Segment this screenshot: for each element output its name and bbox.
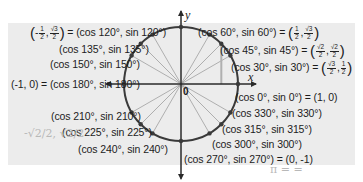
- label-30: (cos 30°, sin 30°) = (√32,12): [231, 61, 352, 75]
- label-330: (cos 330°, sin 330°): [232, 107, 322, 119]
- label-120: (-12,√32) = (cos 120°, sin 120°): [30, 26, 166, 40]
- label-300: (cos 300°, sin 300°): [212, 138, 302, 150]
- label-45: (cos 45°, sin 45°) = (√22,√22): [220, 44, 345, 58]
- label-315: (cos 315°, sin 315°): [222, 123, 312, 135]
- label-60: (cos 60°, sin 60°) = (12,√32): [198, 26, 319, 40]
- label-210: (cos 210°, sin 210°): [51, 110, 141, 122]
- label-180: (-1, 0) = (cos 180°, sin 180°): [11, 78, 140, 90]
- handwritten-note-pi: π = =: [270, 163, 303, 176]
- handwritten-note-225: -√2/2, √2/2: [24, 127, 84, 140]
- label-0: (cos 0°, sin 0°) = (1, 0): [235, 91, 337, 103]
- label-150: (cos 150°, sin 150°): [50, 58, 140, 70]
- label-240: (cos 240°, sin 240°): [78, 143, 168, 155]
- origin-label: 0: [183, 86, 189, 97]
- label-135: (cos 135°, sin 135°): [59, 43, 149, 55]
- y-axis-label: y: [185, 8, 190, 23]
